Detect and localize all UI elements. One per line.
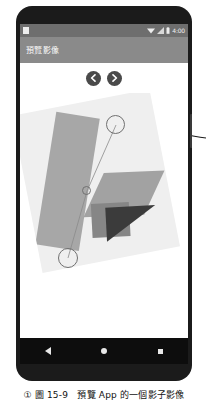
- marker-top[interactable]: [106, 115, 125, 134]
- home-button[interactable]: [101, 348, 107, 354]
- system-navigation-bar: [20, 338, 188, 364]
- recents-button[interactable]: [158, 349, 163, 354]
- image-content-area[interactable]: [20, 93, 188, 338]
- status-bar-clock: 4:00: [172, 28, 185, 34]
- phone-screen: 4:00 預覽影像: [20, 24, 188, 364]
- chevron-left-icon: [90, 74, 97, 82]
- phone-device: 4:00 預覽影像: [16, 6, 192, 381]
- chevron-right-icon: [111, 74, 118, 82]
- status-bar-left: [23, 27, 29, 34]
- status-bar-right: 4:00: [147, 27, 185, 34]
- caption-text: 圖 15-9 預覽 App 的一個影子影像: [35, 389, 185, 401]
- figure-container: 4:00 預覽影像: [0, 0, 208, 407]
- app-icon: [23, 27, 29, 34]
- marker-bottom[interactable]: [58, 248, 78, 268]
- marker-middle[interactable]: [82, 186, 91, 195]
- previous-image-button[interactable]: [86, 71, 101, 86]
- photo-shape-shadow: [105, 205, 157, 242]
- app-bar-title: 預覽影像: [26, 46, 59, 55]
- preview-photo: [20, 93, 180, 273]
- power-button[interactable]: [190, 114, 192, 148]
- photo-shape-bar: [35, 112, 99, 251]
- next-image-button[interactable]: [107, 71, 122, 86]
- battery-icon: [166, 27, 170, 34]
- back-button[interactable]: [45, 347, 51, 355]
- app-bar: 預覽影像: [20, 37, 188, 63]
- wifi-icon: [147, 27, 155, 34]
- figure-caption: ① 圖 15-9 預覽 App 的一個影子影像: [0, 389, 208, 407]
- signal-icon: [157, 27, 164, 34]
- image-nav-row: [20, 63, 188, 93]
- caption-marker: ①: [24, 389, 32, 401]
- status-bar: 4:00: [20, 24, 188, 37]
